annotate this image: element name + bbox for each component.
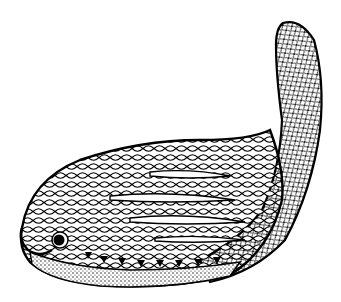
creature-illustration (0, 0, 341, 302)
illustration-canvas (0, 0, 341, 302)
eye (52, 232, 68, 248)
